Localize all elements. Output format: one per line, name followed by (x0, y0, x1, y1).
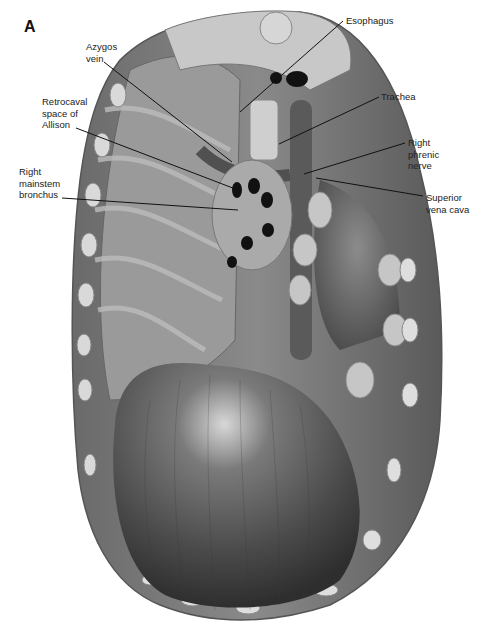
label-right-phrenic-nerve: Right phrenic nerve (408, 137, 439, 172)
label-trachea: Trachea (381, 91, 416, 103)
anatomical-illustration: A Azygos vein Retrocaval space of Alliso… (0, 0, 484, 628)
label-azygos-vein: Azygos vein (86, 41, 117, 64)
label-esophagus: Esophagus (346, 15, 394, 27)
label-retrocaval-space: Retrocaval space of Allison (42, 96, 87, 131)
label-superior-vena-cava: Superior vena cava (426, 192, 469, 215)
label-right-mainstem-bronchus: Right mainstem bronchus (19, 166, 60, 201)
panel-letter: A (24, 18, 36, 36)
